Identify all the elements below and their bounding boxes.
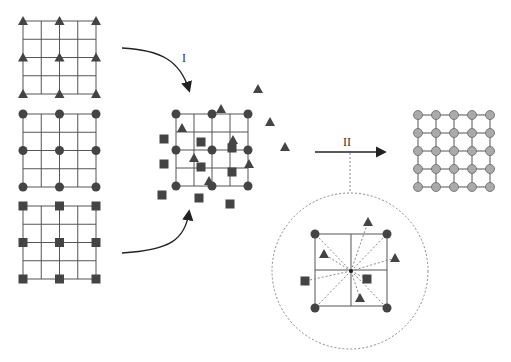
square-marker (19, 202, 28, 211)
circle-marker (383, 304, 392, 313)
circle-marker (208, 110, 217, 119)
arrow-step-1-lower (122, 212, 189, 253)
square-marker (195, 194, 204, 203)
output-node (486, 183, 495, 192)
output-node (486, 165, 495, 174)
circle-marker (244, 110, 253, 119)
square-marker (197, 163, 206, 172)
triangle-marker (216, 104, 226, 113)
square-marker (160, 135, 169, 144)
output-grid (414, 111, 495, 192)
output-node (414, 165, 423, 174)
triangle-marker (253, 84, 263, 93)
circle-marker (311, 230, 320, 239)
square-marker (160, 160, 169, 169)
circle-marker (244, 182, 253, 191)
output-node (414, 183, 423, 192)
square-marker (228, 144, 237, 153)
circle-marker (92, 110, 101, 119)
circle-marker (19, 183, 28, 192)
interpolation-line (315, 271, 351, 308)
square-marker (158, 191, 167, 200)
square-marker (228, 168, 237, 177)
output-node (486, 147, 495, 156)
square-marker (92, 238, 101, 247)
square-marker (197, 138, 206, 147)
output-node (432, 147, 441, 156)
output-node (450, 111, 459, 120)
circle-marker (55, 110, 64, 119)
triangle-grid (18, 16, 101, 98)
square-marker (226, 200, 235, 209)
output-node (450, 147, 459, 156)
square-grid (19, 202, 101, 284)
square-marker (55, 238, 64, 247)
circle-grid (19, 110, 101, 192)
circle-marker (92, 183, 101, 192)
output-node (450, 183, 459, 192)
output-node (468, 129, 477, 138)
circle-marker (383, 230, 392, 239)
arrow-step-1 (122, 48, 189, 90)
circle-marker (244, 146, 253, 155)
triangle-marker (189, 153, 199, 162)
square-marker (55, 202, 64, 211)
step-2-label: II (343, 135, 351, 149)
circle-marker (19, 110, 28, 119)
circle-marker (172, 110, 181, 119)
output-node (468, 165, 477, 174)
square-marker (301, 277, 310, 286)
square-marker (363, 275, 372, 284)
output-node (432, 165, 441, 174)
output-node (414, 111, 423, 120)
output-node (468, 147, 477, 156)
output-node (432, 183, 441, 192)
zoom-grid (301, 217, 401, 313)
output-node (486, 129, 495, 138)
triangle-marker (319, 249, 329, 258)
triangle-marker (355, 293, 365, 302)
triangle-marker (265, 117, 275, 126)
output-node (486, 111, 495, 120)
triangle-marker (244, 159, 254, 168)
interpolation-line (315, 234, 351, 271)
square-marker (92, 275, 101, 284)
step-1-label: I (182, 51, 186, 65)
interpolation-line (351, 222, 368, 271)
interpolation-line (305, 271, 351, 281)
output-node (450, 165, 459, 174)
diagram-canvas: I II (0, 0, 511, 362)
circle-marker (55, 146, 64, 155)
output-node (432, 129, 441, 138)
interpolation-line (351, 234, 387, 271)
square-marker (19, 238, 28, 247)
merged-grid (158, 84, 291, 209)
square-marker (55, 275, 64, 284)
triangle-marker (390, 253, 400, 262)
circle-marker (92, 146, 101, 155)
output-node (432, 111, 441, 120)
output-node (468, 111, 477, 120)
output-node (414, 129, 423, 138)
circle-marker (172, 182, 181, 191)
circle-marker (55, 183, 64, 192)
circle-marker (311, 304, 320, 313)
circle-marker (208, 146, 217, 155)
square-marker (19, 275, 28, 284)
triangle-marker (280, 142, 290, 151)
triangle-marker (363, 217, 373, 226)
circle-marker (19, 146, 28, 155)
output-node (468, 183, 477, 192)
circle-marker (172, 146, 181, 155)
triangle-marker (177, 123, 187, 132)
output-node (450, 129, 459, 138)
output-node (414, 147, 423, 156)
target-point (349, 269, 353, 273)
square-marker (92, 202, 101, 211)
